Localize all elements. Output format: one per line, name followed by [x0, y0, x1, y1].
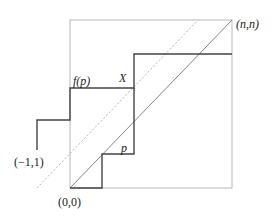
label-p: p: [120, 141, 127, 155]
label-x: X: [118, 71, 127, 85]
label-f-p: f(p): [73, 74, 90, 88]
lattice-diagram: (n,n) (0,0) (−1,1) f(p) X p: [0, 0, 277, 220]
shifted-diagonal: [37, 20, 198, 188]
main-diagonal: [70, 20, 232, 188]
label-origin: (0,0): [58, 195, 81, 209]
original-path: [70, 88, 134, 188]
label-n-n: (n,n): [236, 17, 259, 31]
label-start: (−1,1): [14, 155, 44, 169]
